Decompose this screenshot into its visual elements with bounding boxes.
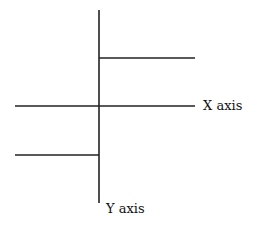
- y-axis-label: Y axis: [106, 201, 145, 216]
- x-axis-label: X axis: [203, 98, 242, 113]
- axis-diagram: [0, 0, 253, 229]
